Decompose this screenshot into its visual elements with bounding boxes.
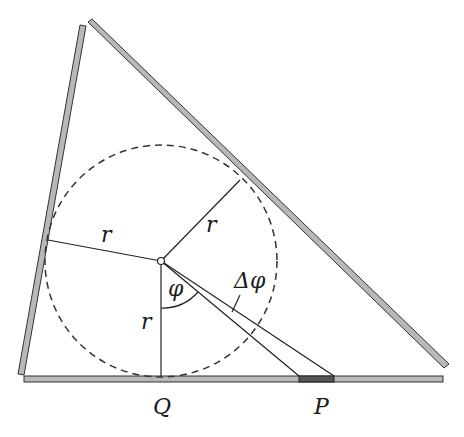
label-r-left: r [101,222,113,247]
base-wall [24,376,443,382]
center-point [158,258,165,265]
incircle-diagram: r r r φ Δφ Q P [0,0,464,437]
label-r-upper: r [206,212,218,237]
left-side-wall [18,25,86,375]
radius-upper [161,180,240,261]
label-r-vertical: r [141,309,153,334]
label-phi: φ [168,276,184,301]
label-q: Q [153,394,171,419]
segment-p [299,376,334,382]
delta-phi-tick [232,295,240,312]
label-delta-phi: Δφ [233,268,266,293]
label-p: P [313,394,330,419]
